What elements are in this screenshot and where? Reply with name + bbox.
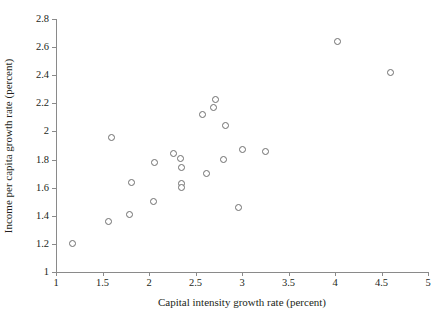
y-tick-label: 2.2 [36, 98, 49, 109]
scatter-plot-figure: Income per capita growth rate (percent) … [0, 0, 448, 321]
data-point [178, 164, 185, 171]
y-tick-label: 1.2 [36, 239, 49, 250]
data-point [105, 218, 112, 225]
data-point [177, 155, 184, 162]
x-tick-mark [335, 272, 336, 276]
x-axis-title: Capital intensity growth rate (percent) [56, 297, 428, 308]
y-tick-mark [52, 47, 56, 48]
data-point [235, 204, 242, 211]
y-tick-label: 1.8 [36, 154, 49, 165]
x-tick-label: 5 [425, 278, 430, 289]
data-point [210, 104, 217, 111]
y-tick-mark [52, 131, 56, 132]
y-tick-label: 2.6 [36, 42, 49, 53]
x-tick-mark [428, 272, 429, 276]
y-tick-label: 2.8 [36, 14, 49, 25]
y-tick-mark [52, 103, 56, 104]
x-tick-mark [103, 272, 104, 276]
x-tick-label: 4.5 [375, 278, 388, 289]
data-point [151, 159, 158, 166]
data-point [128, 179, 135, 186]
data-point [262, 148, 269, 155]
y-tick-mark [52, 216, 56, 217]
x-tick-label: 1.5 [96, 278, 109, 289]
y-tick-mark [52, 188, 56, 189]
x-tick-label: 4 [332, 278, 337, 289]
y-tick-label: 1 [44, 267, 49, 278]
x-tick-label: 1 [53, 278, 58, 289]
data-point [387, 69, 394, 76]
x-tick-mark [149, 272, 150, 276]
y-tick-label: 1.4 [36, 211, 49, 222]
y-tick-label: 2.4 [36, 70, 49, 81]
x-tick-mark [242, 272, 243, 276]
data-point [150, 198, 157, 205]
data-point [334, 38, 341, 45]
data-point [108, 134, 115, 141]
y-tick-mark [52, 19, 56, 20]
data-point [69, 240, 76, 247]
data-point [203, 170, 210, 177]
x-tick-mark [196, 272, 197, 276]
x-tick-label: 2 [146, 278, 151, 289]
y-tick-label: 2 [44, 126, 49, 137]
data-point [212, 96, 219, 103]
data-point [220, 156, 227, 163]
data-point [126, 211, 133, 218]
x-tick-label: 3.5 [282, 278, 295, 289]
x-tick-label: 2.5 [189, 278, 202, 289]
data-point [222, 122, 229, 129]
y-axis-title: Income per capita growth rate (percent) [0, 19, 16, 272]
data-point [199, 111, 206, 118]
y-axis-title-text: Income per capita growth rate (percent) [3, 58, 14, 232]
y-tick-label: 1.6 [36, 182, 49, 193]
plot-area: 11.21.41.61.822.22.42.62.8 11.522.533.54… [56, 19, 428, 272]
x-tick-mark [382, 272, 383, 276]
x-tick-label: 3 [239, 278, 244, 289]
x-tick-mark [289, 272, 290, 276]
x-tick-mark [56, 272, 57, 276]
y-tick-mark [52, 75, 56, 76]
y-tick-mark [52, 244, 56, 245]
data-point [239, 146, 246, 153]
y-axis-line [56, 19, 57, 272]
data-point [170, 150, 177, 157]
data-point [178, 184, 185, 191]
y-tick-mark [52, 160, 56, 161]
